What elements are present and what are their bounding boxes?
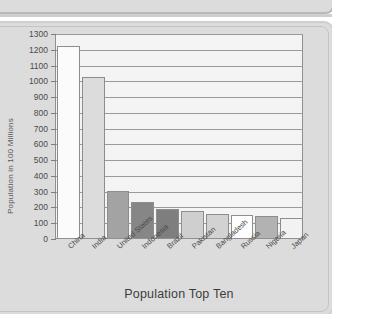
y-axis-tick-label: 300	[34, 187, 48, 197]
y-axis-tick-label: 500	[34, 155, 48, 165]
bar	[57, 46, 80, 238]
y-axis-tick-label: 1100	[30, 61, 48, 71]
y-axis-tick-label: 700	[34, 124, 48, 134]
plot-area: 1300120011001000900800700600500400300200…	[55, 34, 303, 239]
y-axis-tick-label: 200	[34, 202, 48, 212]
y-axis-tick-label: 800	[34, 108, 48, 118]
bottom-margin	[0, 314, 370, 322]
bars-group	[56, 34, 303, 238]
y-axis-tick-label: 100	[34, 218, 48, 228]
y-axis-tick-label: 900	[34, 92, 48, 102]
y-axis-tick-label: 0	[43, 234, 48, 244]
y-axis-title: Population in 100 Millions	[2, 91, 18, 241]
y-axis-tick-label: 1000	[29, 76, 48, 86]
y-axis-tick-label: 1300	[29, 29, 48, 39]
top-panel-shadow	[0, 14, 334, 17]
bar	[107, 191, 130, 238]
y-axis-tick	[51, 239, 56, 240]
x-axis-title: Population Top Ten	[55, 287, 303, 301]
right-margin	[332, 0, 370, 322]
bar	[82, 77, 105, 238]
top-panel-fragment	[0, 0, 334, 14]
y-axis-tick-label: 1200	[29, 45, 48, 55]
page-root: Population in 100 Millions 1300120011001…	[0, 0, 370, 322]
bar-chart: Population in 100 Millions 1300120011001…	[0, 21, 332, 317]
y-axis-tick-label: 600	[34, 139, 48, 149]
y-axis-tick-label: 400	[34, 171, 48, 181]
